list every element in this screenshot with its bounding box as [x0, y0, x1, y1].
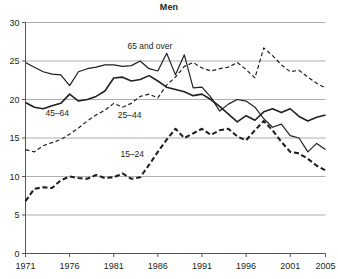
chart-container: Men 051015202530197119761981198619911996… [0, 0, 338, 279]
series-line-15-24 [26, 121, 326, 201]
x-tick-label-1991: 1991 [192, 261, 212, 271]
x-tick-label-1996: 1996 [236, 261, 256, 271]
y-tick-label-15: 15 [9, 133, 19, 143]
series-line-65-and-over [26, 53, 326, 152]
x-tick-label-1986: 1986 [148, 261, 168, 271]
x-tick-label-2005: 2005 [315, 261, 335, 271]
series-label-45-64: 45–64 [45, 108, 69, 118]
x-tick-label-2001: 2001 [280, 261, 300, 271]
y-tick-label-25: 25 [9, 56, 19, 66]
series-label-65-and-over: 65 and over [127, 41, 172, 51]
y-tick-label-5: 5 [14, 210, 19, 220]
x-tick-label-1971: 1971 [15, 261, 35, 271]
series-label-15-24: 15–24 [120, 149, 144, 159]
series-label-25-44: 25–44 [118, 110, 142, 120]
y-tick-label-20: 20 [9, 95, 19, 105]
y-tick-label-30: 30 [9, 18, 19, 28]
x-tick-label-1981: 1981 [104, 261, 124, 271]
x-tick-label-1976: 1976 [60, 261, 80, 271]
line-chart-plot: 0510152025301971197619811986199119962001… [0, 0, 338, 279]
y-tick-label-0: 0 [14, 249, 19, 259]
y-tick-label-10: 10 [9, 172, 19, 182]
series-line-45-64 [26, 76, 326, 122]
